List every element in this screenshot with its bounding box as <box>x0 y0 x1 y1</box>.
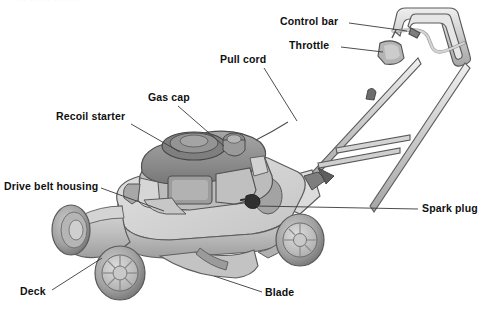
handle-mid-lever <box>366 88 376 100</box>
label-recoil-starter: Recoil starter <box>56 111 125 122</box>
lawn-mower-illustration <box>0 0 491 310</box>
label-spark-plug: Spark plug <box>422 203 478 214</box>
engine-block <box>124 122 289 210</box>
front-right-wheel <box>276 214 324 266</box>
blade-leader <box>214 276 262 292</box>
label-deck: Deck <box>20 286 46 297</box>
handle-bar-assembly <box>307 8 471 212</box>
label-control-bar: Control bar <box>280 16 338 27</box>
front-left-wheel <box>95 246 145 300</box>
throttle-leader <box>341 47 383 52</box>
label-drive-belt-housing: Drive belt housing <box>4 181 98 192</box>
pull-cord-leader <box>264 68 297 121</box>
rear-left-wheel <box>52 205 90 255</box>
label-pull-cord: Pull cord <box>220 54 266 65</box>
label-gas-cap: Gas cap <box>148 92 190 103</box>
label-throttle: Throttle <box>289 40 329 51</box>
gas-cap-knob <box>223 133 245 156</box>
label-blade: Blade <box>265 287 294 298</box>
diagram-canvas: ··· ······ ········· <box>0 0 491 310</box>
